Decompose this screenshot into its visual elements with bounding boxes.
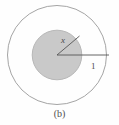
figure-container: x 1 (b): [0, 0, 119, 125]
inner-radius-label: x: [61, 36, 65, 45]
outer-radius-label: 1: [91, 62, 96, 71]
figure-caption: (b): [0, 109, 119, 119]
geometry-diagram: [0, 0, 119, 125]
